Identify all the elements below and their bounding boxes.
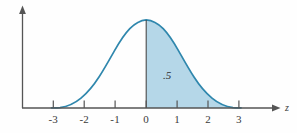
x-axis-arrowhead (272, 105, 281, 112)
tick-label-neg3: -3 (42, 114, 64, 125)
tick-label-pos2: 2 (197, 114, 219, 125)
shaded-area-right-half (146, 20, 241, 108)
tick-label-neg2: -2 (73, 114, 95, 125)
tick-label-zero: 0 (135, 114, 157, 125)
tick-label-pos3: 3 (228, 114, 250, 125)
y-axis-arrowhead (19, 6, 26, 15)
shaded-area-label: .5 (163, 70, 171, 81)
x-axis-label: z (285, 103, 289, 113)
tick-label-pos1: 1 (166, 114, 188, 125)
tick-label-neg1: -1 (104, 114, 126, 125)
normal-curve-figure: -3 -2 -1 0 1 2 3 z .5 (0, 0, 297, 133)
